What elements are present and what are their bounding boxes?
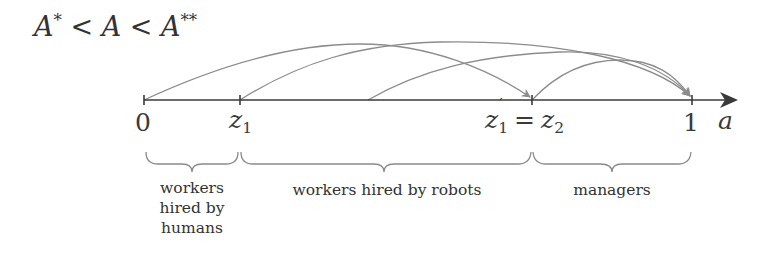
arc-0-to-z1prime [144, 44, 530, 100]
number-line [144, 95, 732, 105]
tick-label-z1prime-eq-z2: z′1=z2 [485, 105, 564, 137]
region-label-robots: workers hired by robots [262, 180, 512, 200]
arc-mid-to-1 [368, 52, 690, 100]
braces [146, 152, 691, 172]
tick-label-0: 0 [135, 108, 151, 137]
brace-robots [241, 152, 531, 172]
region-label-humans: workers hired by humans [150, 178, 234, 238]
arc-z1-to-1 [240, 42, 690, 100]
region-label-managers: managers [560, 180, 664, 200]
tick-label-z1: z1 [229, 105, 252, 137]
condition-title: A* < A < A** [34, 10, 197, 42]
brace-managers [533, 152, 691, 172]
tick-label-1: 1 [683, 108, 699, 137]
brace-humans [146, 152, 238, 172]
arcs [144, 42, 690, 100]
axis-variable-label: a [718, 106, 733, 135]
